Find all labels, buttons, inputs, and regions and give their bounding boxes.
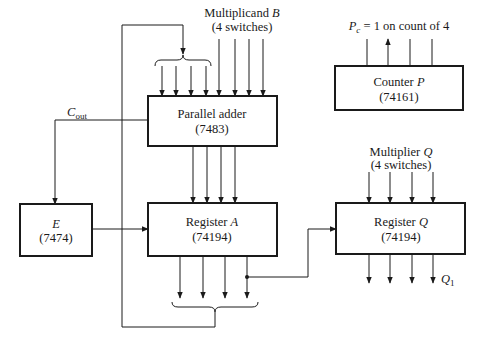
multiplicand-switches-label: (4 switches) <box>212 20 273 34</box>
adder-to-register-a <box>193 146 235 203</box>
e-flipflop-name: E <box>51 217 60 231</box>
register-a-name: Register A <box>186 215 239 229</box>
parallel-adder-name: Parallel adder <box>177 107 247 121</box>
e-flipflop-chip: (7474) <box>39 231 72 245</box>
register-q-chip: (74194) <box>381 230 421 244</box>
multiplier-block-diagram: Multiplicand B (4 switches) Pc = 1 on co… <box>0 0 480 344</box>
carry-out-wire <box>55 120 148 204</box>
carry-out-label: Cout <box>67 105 87 121</box>
multiplier-switches-label: (4 switches) <box>371 158 432 172</box>
counter-p-chip: (74161) <box>379 90 419 104</box>
register-a-outputs <box>180 256 247 298</box>
bottom-brace <box>172 302 258 312</box>
multiplier-label: Multiplier Q <box>370 145 433 159</box>
adder-a-inputs <box>162 66 206 96</box>
register-q-name: Register Q <box>374 215 428 229</box>
multiplicand-label: Multiplicand B <box>204 6 280 20</box>
register-q-outputs <box>369 254 433 283</box>
junction-dot <box>245 275 249 279</box>
a-to-register-q-wire <box>247 229 336 277</box>
parallel-adder-block <box>148 96 277 146</box>
top-brace <box>155 55 211 66</box>
parallel-adder-chip: (7483) <box>195 122 228 136</box>
feedback-loop-wire <box>122 25 215 327</box>
multiplier-q-inputs <box>369 172 433 203</box>
counter-p-outputs <box>367 39 432 66</box>
counter-p-name: Counter P <box>373 75 424 89</box>
register-a-chip: (74194) <box>192 230 232 244</box>
q1-output-label: Q1 <box>441 272 455 288</box>
multiplicand-b-inputs <box>219 39 263 96</box>
counter-output-label: Pc = 1 on count of 4 <box>348 19 450 35</box>
